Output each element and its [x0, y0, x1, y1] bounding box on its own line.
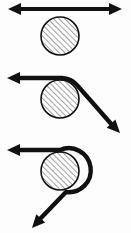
- panel-2-quarter-wrap: [7, 72, 120, 133]
- arrowhead-left-panel-2: [7, 72, 20, 84]
- figure-container: [0, 0, 131, 233]
- arrowhead-left-panel-3: [7, 144, 20, 156]
- belt-line-panel-1: [8, 3, 122, 15]
- panel-3-three-quarter-wrap: [7, 144, 91, 228]
- belt-wrap-diagram: [0, 0, 131, 233]
- arrowhead-left-panel-1: [8, 3, 21, 15]
- arrowhead-right-panel-1: [109, 3, 122, 15]
- panel-1-zero-wrap: [8, 3, 122, 55]
